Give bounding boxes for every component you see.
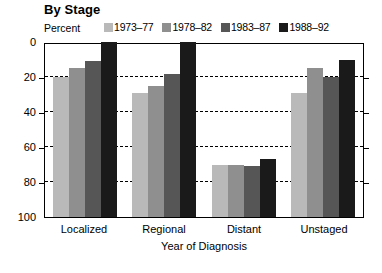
- legend-item-label: 1978–82: [172, 22, 211, 33]
- y-axis-tick: [39, 113, 44, 114]
- x-axis-title: Year of Diagnosis: [44, 240, 364, 252]
- y-axis-tick: [364, 148, 369, 149]
- x-axis-label: Unstaged: [284, 223, 364, 235]
- bar: [180, 42, 196, 217]
- bar-group: [45, 44, 125, 217]
- y-axis-label: 40: [0, 106, 36, 118]
- legend-item: 1978–82: [162, 22, 211, 33]
- y-axis-tick: [364, 183, 369, 184]
- bar-group: [284, 44, 364, 217]
- plot-inner: [45, 44, 363, 217]
- legend-swatch-icon: [221, 23, 230, 32]
- bar: [148, 86, 164, 217]
- bar: [228, 165, 244, 218]
- bar: [101, 42, 117, 217]
- bar-group: [125, 44, 205, 217]
- chart-legend: 1973–771978–821983–871988–92: [104, 22, 329, 33]
- legend-item-label: 1988–92: [289, 22, 328, 33]
- legend-item-label: 1973–77: [114, 22, 153, 33]
- bar: [69, 68, 85, 217]
- y-axis-tick: [364, 113, 369, 114]
- plot-area: [44, 43, 364, 218]
- legend-item: 1973–77: [104, 22, 153, 33]
- bar: [323, 77, 339, 217]
- bars-layer: [45, 44, 363, 217]
- y-axis-caption: Percent: [44, 22, 80, 34]
- legend-swatch-icon: [279, 23, 288, 32]
- y-axis-tick: [39, 183, 44, 184]
- x-axis-label: Distant: [204, 223, 284, 235]
- x-axis-label: Localized: [44, 223, 124, 235]
- legend-item: 1983–87: [221, 22, 270, 33]
- y-axis-label: 20: [0, 71, 36, 83]
- y-axis-tick: [39, 78, 44, 79]
- legend-item-label: 1983–87: [231, 22, 270, 33]
- bar: [307, 68, 323, 217]
- legend-item: 1988–92: [279, 22, 328, 33]
- y-axis-label: 80: [0, 176, 36, 188]
- bar: [260, 159, 276, 217]
- y-axis-label: 100: [0, 211, 36, 223]
- y-axis-tick: [39, 148, 44, 149]
- bar-group: [204, 44, 284, 217]
- x-axis-category-labels: LocalizedRegionalDistantUnstaged: [44, 223, 364, 235]
- bar: [85, 61, 101, 217]
- x-axis-label: Regional: [124, 223, 204, 235]
- bar: [132, 93, 148, 217]
- legend-swatch-icon: [104, 23, 113, 32]
- bar: [339, 60, 355, 218]
- legend-swatch-icon: [162, 23, 171, 32]
- page-title: By Stage: [44, 2, 100, 17]
- bar: [212, 165, 228, 218]
- y-axis-label: 0: [0, 36, 36, 48]
- bar: [53, 77, 69, 217]
- y-axis-label: 60: [0, 141, 36, 153]
- bar: [244, 166, 260, 217]
- bar: [164, 74, 180, 218]
- bar: [291, 93, 307, 217]
- y-axis-tick: [364, 78, 369, 79]
